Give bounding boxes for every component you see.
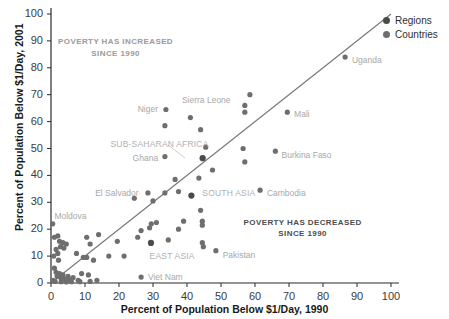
annotation-line-1: POVERTY HAS INCREASED <box>51 36 181 48</box>
data-point-country <box>64 279 69 284</box>
data-point-country <box>198 208 203 213</box>
point-label-sierra-leone: Sierra Leone <box>182 95 231 105</box>
point-label-sub-saharan-africa: SUB-SAHARAN AFRICA <box>111 139 209 149</box>
x-tick-label: 90 <box>342 290 372 302</box>
data-point-region <box>200 155 206 161</box>
data-point-country <box>200 223 205 228</box>
point-label-pakistan: Pakistan <box>223 250 256 260</box>
x-tick-label: 100 <box>376 290 406 302</box>
data-point-country <box>210 167 215 172</box>
point-label-cambodia: Cambodia <box>267 188 306 198</box>
data-point-country <box>258 188 263 193</box>
data-point-country <box>94 278 99 283</box>
data-point-country <box>147 225 152 230</box>
data-point-country <box>115 239 120 244</box>
data-point-country <box>162 190 167 195</box>
legend-item-countries[interactable]: Countries <box>383 27 449 41</box>
data-point-region <box>148 240 154 246</box>
data-point-country <box>57 239 62 244</box>
legend-dot-icon <box>383 31 390 38</box>
annotation-poverty-has-decreased: POVERTY HAS DECREASEDSINCE 1990 <box>238 217 368 240</box>
x-tick-label: 30 <box>138 290 168 302</box>
x-tick-label: 70 <box>274 290 304 302</box>
data-point-country <box>56 258 61 263</box>
data-point-country <box>162 154 167 159</box>
data-point-country <box>150 198 155 203</box>
y-axis-title: Percent of Population Below $1/Day, 2001 <box>13 61 25 231</box>
x-tick-label: 10 <box>70 290 100 302</box>
y-tick-label: 0 <box>13 276 43 288</box>
data-point-country <box>176 189 181 194</box>
data-point-country <box>74 251 79 256</box>
data-point-country <box>162 123 167 128</box>
data-point-country <box>52 235 57 240</box>
data-point-country <box>135 235 140 240</box>
data-point-country <box>51 254 56 259</box>
point-label-el-salvador: El Salvador <box>95 188 138 198</box>
point-label-moldova: Moldova <box>54 211 86 221</box>
data-point-region <box>188 192 194 198</box>
point-label-uganda: Uganda <box>352 55 382 65</box>
point-label-south-asia: SOUTH ASIA <box>202 188 255 198</box>
y-tick-label: 10 <box>13 249 43 261</box>
data-point-country <box>196 175 201 180</box>
data-point-country <box>88 241 93 246</box>
data-point-country <box>242 103 247 108</box>
point-label-ghana: Ghana <box>133 153 159 163</box>
annotation-poverty-has-increased: POVERTY HAS INCREASEDSINCE 1990 <box>51 36 181 59</box>
point-label-mali: Mali <box>294 109 310 119</box>
point-label-east-asia: EAST ASIA <box>150 251 195 261</box>
data-point-country <box>201 244 206 249</box>
data-point-country <box>241 146 246 151</box>
legend-dot-icon <box>383 17 390 24</box>
legend-item-regions[interactable]: Regions <box>383 13 449 27</box>
point-label-burkina-faso: Burkina Faso <box>282 150 332 160</box>
data-point-country <box>86 272 91 277</box>
data-point-country <box>166 237 171 242</box>
point-label-viet-nam: Viet Nam <box>148 272 183 282</box>
data-point-country <box>173 177 178 182</box>
legend-label: Regions <box>395 15 432 26</box>
y-tick-label: 100 <box>13 7 43 19</box>
data-point-country <box>88 279 93 284</box>
data-point-country <box>52 279 57 284</box>
data-point-country <box>176 227 181 232</box>
data-point-country <box>139 228 144 233</box>
data-point-country <box>285 110 290 115</box>
data-point-country <box>181 219 186 224</box>
data-point-country <box>81 255 86 260</box>
data-point-country <box>91 258 96 263</box>
data-point-country <box>106 254 111 259</box>
data-point-country <box>154 220 159 225</box>
data-point-country <box>61 245 66 250</box>
data-point-country <box>79 271 84 276</box>
chart-legend: RegionsCountries <box>383 13 449 41</box>
x-tick-label: 40 <box>172 290 202 302</box>
data-point-country <box>242 159 247 164</box>
data-point-country <box>198 127 203 132</box>
data-point-country <box>213 248 218 253</box>
data-point-country <box>247 92 252 97</box>
data-point-country <box>273 149 278 154</box>
x-tick-label: 60 <box>240 290 270 302</box>
data-point-country <box>163 107 168 112</box>
x-axis-title: Percent of Population Below $1/Day, 1990 <box>0 303 449 315</box>
poverty-scatter-chart: 0102030405060708090100 01020304050607080… <box>0 0 449 319</box>
annotation-line-2: SINCE 1990 <box>51 48 181 60</box>
data-point-country <box>188 115 193 120</box>
annotation-line-1: POVERTY HAS DECREASED <box>238 217 368 229</box>
x-tick-label: 20 <box>104 290 134 302</box>
data-point-country <box>77 279 82 284</box>
data-point-country <box>50 221 55 226</box>
data-point-country <box>145 190 150 195</box>
legend-label: Countries <box>395 29 438 40</box>
data-point-country <box>69 279 74 284</box>
data-point-country <box>242 110 247 115</box>
data-point-country <box>96 232 101 237</box>
x-tick-label: 50 <box>206 290 236 302</box>
point-label-niger: Niger <box>138 104 158 114</box>
data-point-country <box>343 54 348 59</box>
annotation-line-2: SINCE 1990 <box>238 228 368 240</box>
data-point-country <box>122 254 127 259</box>
data-point-country <box>59 279 64 284</box>
